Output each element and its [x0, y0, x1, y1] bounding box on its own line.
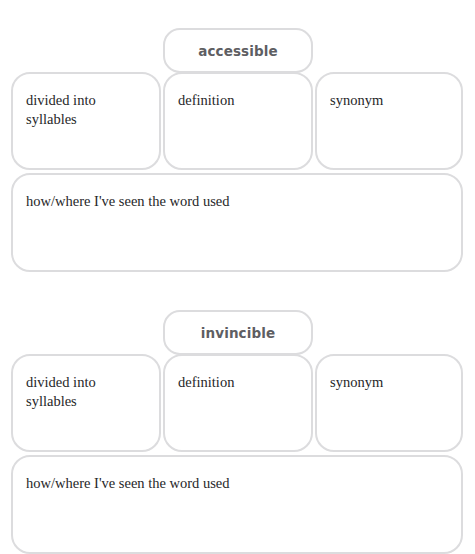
column-definition[interactable]: definition [163, 354, 313, 452]
column-label: synonym [330, 91, 451, 110]
column-synonym[interactable]: synonym [315, 354, 463, 452]
column-divided-into-syllables[interactable]: divided into syllables [11, 72, 161, 170]
word-label: invincible [201, 325, 275, 341]
usage-box-label: how/where I've seen the word used [26, 192, 230, 211]
word-map-diagram-invincible: invincible divided into syllables defini… [0, 282, 475, 540]
column-definition[interactable]: definition [163, 72, 313, 170]
column-label: definition [178, 91, 301, 110]
usage-box[interactable]: how/where I've seen the word used [11, 455, 463, 554]
column-label: definition [178, 373, 301, 392]
column-label: synonym [330, 373, 451, 392]
word-label: accessible [198, 43, 277, 59]
word-pill[interactable]: accessible [163, 28, 313, 73]
usage-box[interactable]: how/where I've seen the word used [11, 173, 463, 272]
word-pill[interactable]: invincible [163, 310, 313, 355]
usage-box-label: how/where I've seen the word used [26, 474, 230, 493]
attribute-columns: divided into syllables definition synony… [0, 72, 475, 170]
column-synonym[interactable]: synonym [315, 72, 463, 170]
column-label: divided into syllables [26, 373, 149, 411]
attribute-columns: divided into syllables definition synony… [0, 354, 475, 452]
column-divided-into-syllables[interactable]: divided into syllables [11, 354, 161, 452]
column-label: divided into syllables [26, 91, 149, 129]
word-map-diagram-accessible: accessible divided into syllables defini… [0, 0, 475, 280]
